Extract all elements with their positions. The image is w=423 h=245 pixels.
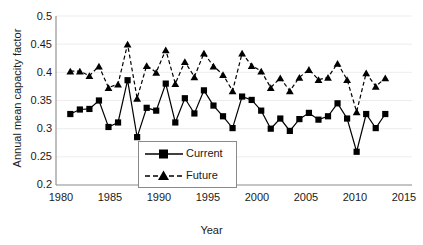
capacity-factor-chart: Annual mean capacity factor Year 0.5 0.4… bbox=[0, 0, 423, 245]
plot-area bbox=[0, 0, 423, 245]
legend-label-future: Future bbox=[186, 169, 218, 181]
legend-label-current: Current bbox=[186, 147, 223, 159]
legend-item-future: Future bbox=[139, 165, 236, 187]
series-future bbox=[66, 41, 389, 115]
legend-symbol-future bbox=[144, 165, 184, 187]
legend-item-current: Current bbox=[139, 143, 236, 165]
legend: Current Future bbox=[138, 141, 237, 188]
legend-symbol-current bbox=[144, 143, 184, 165]
